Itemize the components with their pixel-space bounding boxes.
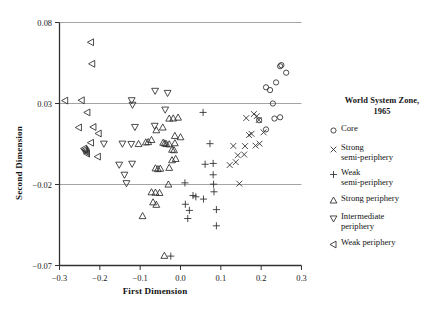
data-point <box>135 140 142 146</box>
x-axis-tick-label: −0.2 <box>92 274 107 283</box>
legend-item-label: Intermediateperiphery <box>341 211 384 231</box>
data-point <box>87 39 93 46</box>
legend-item[interactable]: Weaksemi-periphery <box>326 167 438 187</box>
data-point <box>210 181 217 188</box>
y-axis-tick-label: 0.03 <box>37 100 52 109</box>
data-point <box>123 181 130 187</box>
data-point <box>75 124 81 131</box>
data-point <box>171 132 178 138</box>
data-point <box>233 159 239 165</box>
data-point <box>78 97 84 104</box>
y-axis-tick-label: −0.07 <box>33 262 52 271</box>
data-point <box>202 161 209 168</box>
triangle-down-icon <box>326 211 341 224</box>
data-point <box>279 62 284 67</box>
data-point <box>184 215 191 222</box>
legend-item-label: Strongsemi-periphery <box>341 142 393 162</box>
data-point <box>200 109 207 116</box>
data-point <box>186 207 193 214</box>
data-point <box>119 141 126 147</box>
data-point <box>210 160 217 167</box>
x-axis-tick-label: 0.0 <box>175 274 185 283</box>
triangle-left-icon <box>326 237 341 250</box>
legend-items: CoreStrongsemi-peripheryWeaksemi-periphe… <box>326 123 438 250</box>
data-point <box>284 70 289 75</box>
legend-item[interactable]: Core <box>326 123 438 136</box>
series-strong-periphery <box>135 114 184 258</box>
data-point <box>251 111 257 117</box>
data-point <box>272 116 277 121</box>
data-point <box>200 196 207 203</box>
data-point <box>273 80 278 85</box>
data-point <box>242 143 248 149</box>
data-point <box>210 171 217 178</box>
legend-item-label: Strong periphery <box>341 193 399 203</box>
data-point <box>95 130 101 137</box>
y-axis-tick-label: −0.02 <box>33 181 52 190</box>
data-point <box>152 88 159 94</box>
data-point <box>161 252 168 258</box>
legend: World System Zone, 1965 CoreStrongsemi-p… <box>326 96 438 255</box>
data-point <box>116 162 123 168</box>
x-axis-tick-label: 0.2 <box>256 274 266 283</box>
legend-item-label: Core <box>341 123 358 133</box>
data-point <box>121 172 128 178</box>
legend-item-label: Weaksemi-periphery <box>341 167 393 187</box>
data-point <box>62 97 68 104</box>
plus-icon <box>326 167 341 180</box>
legend-item[interactable]: Strongsemi-periphery <box>326 142 438 162</box>
data-point <box>100 141 107 147</box>
data-point <box>230 143 236 149</box>
data-point <box>213 222 220 229</box>
data-point <box>164 90 171 96</box>
data-point <box>128 141 135 147</box>
x-axis-tick-label: −0.1 <box>133 274 148 283</box>
data-point <box>236 181 242 187</box>
triangle-up-icon <box>326 193 341 206</box>
x-axis-tick-label: 0.1 <box>216 274 226 283</box>
legend-title-line1: World System Zone, <box>326 96 438 107</box>
data-point <box>94 153 100 160</box>
series-weak-periphery <box>62 39 102 160</box>
data-point <box>171 140 178 146</box>
data-point <box>278 115 283 120</box>
data-point <box>210 188 217 195</box>
data-point <box>87 139 93 146</box>
legend-item-label: Weak periphery <box>341 237 395 247</box>
data-point <box>213 206 220 213</box>
legend-item[interactable]: Weak periphery <box>326 237 438 250</box>
legend-item[interactable]: Strong periphery <box>326 193 438 206</box>
data-point <box>162 107 169 113</box>
legend-item[interactable]: Intermediateperiphery <box>326 211 438 231</box>
data-point <box>243 115 249 121</box>
data-point <box>206 140 213 147</box>
data-point <box>132 124 139 130</box>
x-axis-tick-label: −0.3 <box>52 274 67 283</box>
data-point <box>159 124 166 130</box>
data-point <box>182 201 189 208</box>
data-point <box>181 179 188 186</box>
data-point <box>90 124 96 131</box>
data-point <box>235 152 241 158</box>
data-point <box>227 162 233 168</box>
series-core <box>257 62 289 132</box>
scatter-plot-figure: −0.3−0.2−0.10.00.10.20.30.080.03−0.02−0.… <box>0 0 438 310</box>
data-point <box>249 131 255 137</box>
data-point <box>139 213 146 219</box>
data-point <box>165 181 172 187</box>
data-point <box>267 87 272 92</box>
data-point <box>241 152 247 158</box>
data-point <box>129 161 136 167</box>
x-icon <box>326 142 341 155</box>
legend-title: World System Zone, 1965 <box>326 96 438 117</box>
data-point <box>89 60 95 67</box>
x-axis-tick-label: 0.3 <box>296 274 306 283</box>
y-axis-title: Second Dimension <box>14 126 24 200</box>
data-point <box>166 164 173 170</box>
y-axis-tick-label: 0.08 <box>37 19 52 28</box>
circle-icon <box>326 123 341 136</box>
legend-title-line2: 1965 <box>326 107 438 118</box>
data-point <box>84 109 90 116</box>
x-axis-title: First Dimension <box>0 286 310 296</box>
